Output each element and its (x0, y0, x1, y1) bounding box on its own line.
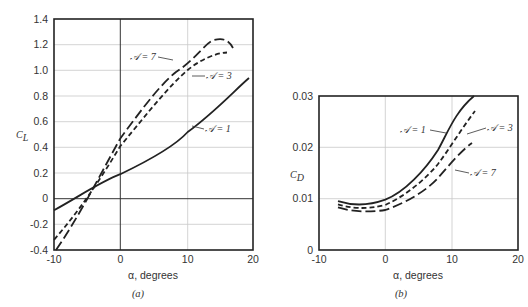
chart-a-label-ar3: 𝒜 = 3 (206, 70, 232, 81)
chart-b-x-label: α, degrees (393, 269, 443, 281)
svg-text:-10: -10 (311, 253, 326, 265)
chart-a-label-ar7: 𝒜 = 7 (130, 51, 157, 62)
chart-a-y-ticks: 1.4 1.2 1.0 0.8 0.6 0.4 0.2 0 -0.2 -0.4 (30, 13, 48, 256)
svg-text:0.8: 0.8 (33, 90, 48, 102)
chart-b-y-label: CD (290, 169, 305, 183)
chart-b-series-ar1 (338, 96, 474, 205)
svg-text:0.4: 0.4 (33, 141, 48, 153)
svg-text:10: 10 (446, 253, 458, 265)
svg-text:0.03: 0.03 (293, 90, 314, 102)
figure: 1.4 1.2 1.0 0.8 0.6 0.4 0.2 0 -0.2 -0.4 … (0, 0, 528, 307)
svg-text:1.2: 1.2 (33, 38, 48, 50)
chart-a: 1.4 1.2 1.0 0.8 0.6 0.4 0.2 0 -0.2 -0.4 … (16, 13, 259, 301)
chart-a-caption: (a) (132, 288, 145, 300)
chart-a-y-label: CL (16, 129, 29, 143)
svg-text:10: 10 (182, 253, 194, 265)
chart-a-x-label: α, degrees (128, 269, 178, 281)
svg-text:0.2: 0.2 (33, 167, 48, 179)
chart-b-label-ar1: 𝒜 = 1 (400, 124, 426, 135)
chart-b-label-ar7: 𝒜 = 7 (470, 167, 497, 178)
chart-b-caption: (b) (395, 288, 408, 300)
svg-text:0: 0 (117, 253, 123, 265)
chart-a-x-ticks: -10 0 10 20 (46, 253, 259, 265)
chart-b-label-ar3: 𝒜 = 3 (487, 122, 513, 133)
svg-text:0.6: 0.6 (33, 115, 48, 127)
svg-text:0.01: 0.01 (293, 192, 314, 204)
svg-text:1.0: 1.0 (33, 64, 48, 76)
svg-text:0: 0 (42, 192, 48, 204)
svg-text:20: 20 (247, 253, 259, 265)
svg-text:0: 0 (382, 253, 388, 265)
svg-text:-10: -10 (46, 253, 61, 265)
svg-text:20: 20 (512, 253, 524, 265)
chart-b: 0.03 0.02 0.01 0 -10 0 10 20 α, degrees … (290, 90, 524, 301)
chart-a-label-ar1: 𝒜 = 1 (205, 123, 231, 134)
svg-text:0.02: 0.02 (293, 141, 314, 153)
svg-text:1.4: 1.4 (33, 13, 48, 25)
svg-text:-0.2: -0.2 (30, 218, 48, 230)
chart-a-series-ar1 (54, 78, 249, 210)
svg-text:-0.4: -0.4 (30, 244, 48, 256)
chart-b-x-ticks: -10 0 10 20 (311, 253, 524, 265)
